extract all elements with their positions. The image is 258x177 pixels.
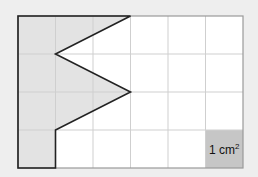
unit-label-main: 1 cm (209, 143, 235, 157)
diagram-stage: 1 cm2 (0, 0, 258, 177)
area-grid-diagram: 1 cm2 (0, 0, 258, 177)
unit-label-superscript: 2 (235, 142, 240, 151)
